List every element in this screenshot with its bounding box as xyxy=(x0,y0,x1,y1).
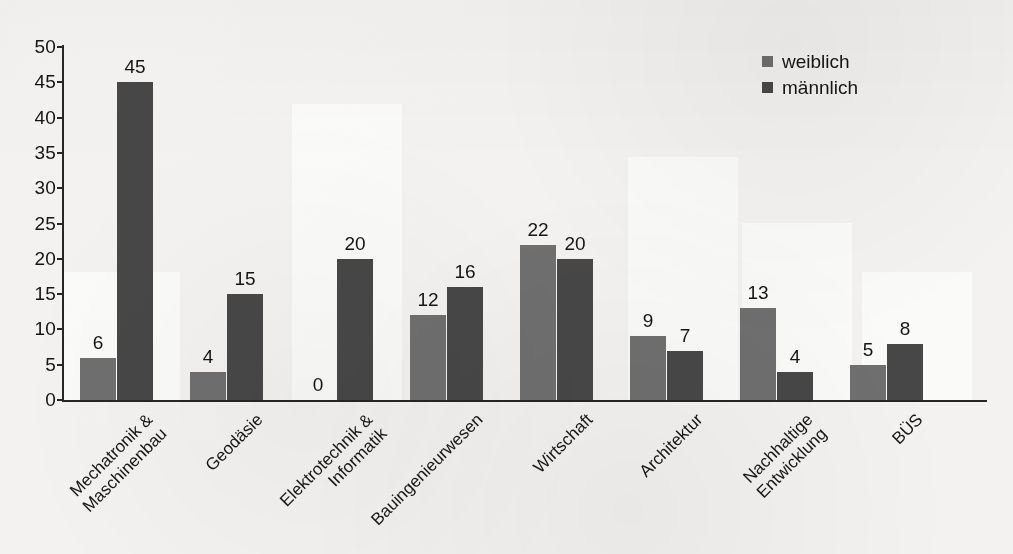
bar-value-label: 4 xyxy=(773,347,817,366)
x-axis-label: Geodäsie xyxy=(201,410,267,476)
y-tick-label: 40 xyxy=(10,108,56,127)
bar-group: 1216 xyxy=(410,47,483,400)
x-axis-label-line: Bauingenieurwesen xyxy=(367,410,487,530)
bar-group: 2220 xyxy=(520,47,593,400)
bar-value-label: 15 xyxy=(223,269,267,288)
bar-männlich[interactable] xyxy=(887,344,923,400)
bar-männlich[interactable] xyxy=(557,259,593,400)
y-axis-ticks: 50454035302520151050 xyxy=(0,0,56,402)
bar-group: 97 xyxy=(630,47,703,400)
x-axis-label: NachhaltigeEntwicklung xyxy=(738,410,830,502)
chart-page: 50454035302520151050 6454150201216222097… xyxy=(0,0,1013,554)
legend: weiblichmännlich xyxy=(762,48,858,100)
x-axis-category-labels: Mechatronik &MaschinenbauGeodäsieElektro… xyxy=(0,400,1013,554)
bar-value-label: 20 xyxy=(553,234,597,253)
bar-männlich[interactable] xyxy=(337,259,373,400)
bar-group: 58 xyxy=(850,47,923,400)
bar-value-label: 6 xyxy=(76,333,120,352)
x-axis-label: Architektur xyxy=(635,410,707,482)
x-axis-label: Mechatronik &Maschinenbau xyxy=(64,410,170,516)
y-tick-label: 35 xyxy=(10,143,56,162)
bar-männlich[interactable] xyxy=(777,372,813,400)
bar-weiblich[interactable] xyxy=(740,308,776,400)
legend-label: männlich xyxy=(782,78,858,97)
bar-weiblich[interactable] xyxy=(850,365,886,400)
bar-value-label: 5 xyxy=(846,340,890,359)
legend-label: weiblich xyxy=(782,52,850,71)
bar-group: 020 xyxy=(300,47,373,400)
x-axis-line xyxy=(62,400,987,402)
x-axis-label: Bauingenieurwesen xyxy=(367,410,487,530)
bar-männlich[interactable] xyxy=(227,294,263,400)
bar-value-label: 20 xyxy=(333,234,377,253)
x-axis-label: BÜS xyxy=(888,410,927,449)
bar-group: 645 xyxy=(80,47,153,400)
bar-weiblich[interactable] xyxy=(630,336,666,400)
bar-value-label: 16 xyxy=(443,262,487,281)
bar-value-label: 4 xyxy=(186,347,230,366)
legend-swatch-icon xyxy=(762,56,773,67)
y-tick-label: 30 xyxy=(10,178,56,197)
bar-value-label: 45 xyxy=(113,57,157,76)
bar-group: 415 xyxy=(190,47,263,400)
bar-weiblich[interactable] xyxy=(410,315,446,400)
x-axis-label-line: Geodäsie xyxy=(201,410,267,476)
bar-männlich[interactable] xyxy=(117,82,153,400)
bar-value-label: 7 xyxy=(663,326,707,345)
y-tick-label: 15 xyxy=(10,284,56,303)
bar-männlich[interactable] xyxy=(447,287,483,400)
y-tick-label: 0 xyxy=(10,390,56,409)
bar-männlich[interactable] xyxy=(667,351,703,400)
bar-weiblich[interactable] xyxy=(80,358,116,400)
bar-value-label: 0 xyxy=(296,375,340,394)
bar-value-label: 8 xyxy=(883,319,927,338)
bar-value-label: 12 xyxy=(406,290,450,309)
y-axis-line xyxy=(62,45,64,402)
legend-item[interactable]: weiblich xyxy=(762,48,858,74)
bar-weiblich[interactable] xyxy=(190,372,226,400)
x-axis-label-line: Wirtschaft xyxy=(529,410,597,478)
y-tick-label: 10 xyxy=(10,319,56,338)
y-tick-label: 45 xyxy=(10,72,56,91)
bar-weiblich[interactable] xyxy=(520,245,556,400)
y-tick-label: 50 xyxy=(10,37,56,56)
legend-swatch-icon xyxy=(762,82,773,93)
bar-value-label: 13 xyxy=(736,283,780,302)
y-tick-label: 20 xyxy=(10,249,56,268)
x-axis-label-line: Architektur xyxy=(635,410,707,482)
y-tick-label: 5 xyxy=(10,355,56,374)
x-axis-label-line: BÜS xyxy=(888,410,927,449)
x-axis-label: Wirtschaft xyxy=(529,410,597,478)
y-tick-label: 25 xyxy=(10,214,56,233)
legend-item[interactable]: männlich xyxy=(762,74,858,100)
